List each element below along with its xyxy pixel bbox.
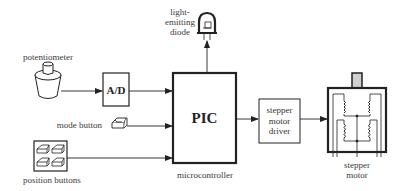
block-diagram: potentiometer A/D mode button position b… [0,0,418,191]
led-icon [197,13,217,40]
motor-label-line1: stepper [337,160,377,170]
led-label-line1: light- [160,7,200,17]
potentiometer-icon [35,62,61,99]
motor-label-line2: motor [337,170,377,180]
push-button-icon [112,118,127,128]
led-label-line2: emitting [160,17,200,27]
position-buttons-label: position buttons [14,175,90,185]
potentiometer-label: potentiometer [18,52,78,62]
driver-label-line3: driver [269,126,291,137]
button-array-icon [34,141,67,171]
stepper-motor-icon [328,73,386,157]
driver-label-line2: motor [269,116,291,127]
driver-label-line1: stepper [267,105,293,116]
driver-label: stepper motor driver [259,99,300,143]
ad-converter-label: A/D [103,73,129,106]
mode-button-label: mode button [52,120,102,130]
led-label-line3: diode [160,27,200,37]
microcontroller-label: microcontroller [170,170,240,180]
pic-label: PIC [173,73,236,163]
